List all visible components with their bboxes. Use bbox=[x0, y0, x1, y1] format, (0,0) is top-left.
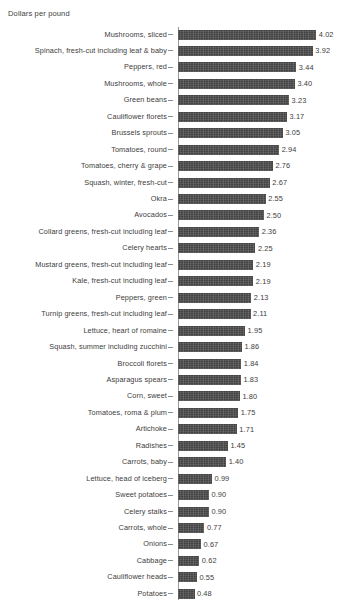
category-label: Squash, summer including zucchini bbox=[49, 342, 167, 352]
category-label: Collard greens, fresh-cut including leaf bbox=[38, 227, 167, 237]
bar-value-label: 0.62 bbox=[202, 556, 217, 566]
category-tick-mark bbox=[168, 528, 173, 529]
category-tick-mark bbox=[168, 199, 173, 200]
bar-value-label: 0.48 bbox=[197, 589, 212, 599]
bar-value-label: 1.83 bbox=[243, 375, 258, 385]
bar-value-label: 1.95 bbox=[248, 326, 263, 336]
category-tick-mark bbox=[168, 478, 173, 479]
category-label: Tomatoes, roma & plum bbox=[88, 408, 167, 418]
bar-value-label: 2.55 bbox=[268, 194, 283, 204]
category-label: Okra bbox=[151, 194, 167, 204]
bar-row: Avocados2.50 bbox=[0, 210, 342, 227]
category-label: Peppers, red bbox=[124, 62, 167, 72]
category-tick-mark bbox=[168, 495, 173, 496]
bar-value-label: 3.23 bbox=[292, 96, 307, 106]
category-label: Potatoes bbox=[137, 589, 167, 599]
bar-chart: Dollars per pound Mushrooms, sliced4.02S… bbox=[0, 0, 342, 613]
category-label: Peppers, green bbox=[116, 293, 167, 303]
category-label: Cauliflower heads bbox=[107, 572, 167, 582]
category-label: Tomatoes, cherry & grape bbox=[81, 161, 167, 171]
bar bbox=[178, 178, 270, 188]
bar-row: Corn, sweet1.80 bbox=[0, 391, 342, 408]
category-tick-mark bbox=[168, 396, 173, 397]
category-label: Carrots, baby bbox=[122, 457, 167, 467]
bar-row: Squash, summer including zucchini1.86 bbox=[0, 342, 342, 359]
category-label: Sweet potatoes bbox=[115, 490, 167, 500]
bar bbox=[178, 210, 264, 220]
category-tick-mark bbox=[168, 50, 173, 51]
bar-value-label: 1.45 bbox=[230, 441, 245, 451]
bar bbox=[178, 572, 197, 582]
bar-row: Mushrooms, whole3.40 bbox=[0, 79, 342, 96]
category-tick-mark bbox=[168, 462, 173, 463]
bar-row: Collard greens, fresh-cut including leaf… bbox=[0, 227, 342, 244]
bar-value-label: 0.67 bbox=[204, 540, 219, 550]
category-label: Avocados bbox=[134, 210, 167, 220]
bar-row: Onions0.67 bbox=[0, 539, 342, 556]
category-tick-mark bbox=[168, 149, 173, 150]
bar bbox=[178, 46, 313, 56]
bar-row: Lettuce, heart of romaine1.95 bbox=[0, 326, 342, 343]
bar bbox=[178, 62, 296, 72]
category-label: Kale, fresh-cut including leaf bbox=[72, 276, 167, 286]
category-tick-mark bbox=[168, 297, 173, 298]
bar bbox=[178, 441, 228, 451]
bar-row: Cauliflower florets3.17 bbox=[0, 112, 342, 129]
bar-row: Sweet potatoes0.90 bbox=[0, 490, 342, 507]
bar-value-label: 2.19 bbox=[256, 260, 271, 270]
bar-value-label: 2.76 bbox=[275, 161, 290, 171]
category-tick-mark bbox=[168, 347, 173, 348]
bar-row: Celery stalks0.90 bbox=[0, 507, 342, 524]
bar-value-label: 2.94 bbox=[282, 145, 297, 155]
bar bbox=[178, 128, 283, 138]
category-tick-mark bbox=[168, 593, 173, 594]
bar-value-label: 2.50 bbox=[267, 211, 282, 221]
category-tick-mark bbox=[168, 445, 173, 446]
bar-row: Artichoke1.71 bbox=[0, 424, 342, 441]
bar-value-label: 3.92 bbox=[315, 46, 330, 56]
bar bbox=[178, 194, 266, 204]
bar-row: Kale, fresh-cut including leaf2.19 bbox=[0, 276, 342, 293]
category-tick-mark bbox=[168, 511, 173, 512]
category-label: Artichoke bbox=[136, 424, 167, 434]
category-tick-mark bbox=[168, 544, 173, 545]
bar bbox=[178, 145, 279, 155]
category-label: Mustard greens, fresh-cut including leaf bbox=[35, 260, 167, 270]
bar-value-label: 3.40 bbox=[297, 79, 312, 89]
category-label: Radishes bbox=[136, 441, 167, 451]
bar-row: Lettuce, head of iceberg0.99 bbox=[0, 474, 342, 491]
bar-value-label: 2.13 bbox=[254, 293, 269, 303]
bar bbox=[178, 342, 242, 352]
bar bbox=[178, 276, 253, 286]
bar-value-label: 0.90 bbox=[211, 490, 226, 500]
category-tick-mark bbox=[168, 116, 173, 117]
bar bbox=[178, 95, 289, 105]
bar-value-label: 0.90 bbox=[211, 507, 226, 517]
bar bbox=[178, 539, 201, 549]
bar-row: Mustard greens, fresh-cut including leaf… bbox=[0, 260, 342, 277]
category-tick-mark bbox=[168, 363, 173, 364]
bar-row: Tomatoes, round2.94 bbox=[0, 145, 342, 162]
bar-value-label: 3.17 bbox=[290, 112, 305, 122]
bar-value-label: 1.40 bbox=[229, 457, 244, 467]
bar bbox=[178, 309, 251, 319]
bar bbox=[178, 161, 273, 171]
bar-value-label: 0.55 bbox=[199, 573, 214, 583]
bar bbox=[178, 556, 199, 566]
bar-value-label: 1.71 bbox=[239, 425, 254, 435]
category-label: Cauliflower florets bbox=[107, 112, 167, 122]
bar-value-label: 1.75 bbox=[241, 408, 256, 418]
bar bbox=[178, 589, 195, 599]
bar-row: Cauliflower heads0.55 bbox=[0, 572, 342, 589]
category-label: Lettuce, head of iceberg bbox=[86, 474, 167, 484]
bar-row: Carrots, whole0.77 bbox=[0, 523, 342, 540]
category-label: Squash, winter, fresh-cut bbox=[84, 178, 167, 188]
bar bbox=[178, 359, 241, 369]
bar-value-label: 3.44 bbox=[299, 63, 314, 73]
bar-row: Okra2.55 bbox=[0, 194, 342, 211]
category-tick-mark bbox=[168, 412, 173, 413]
bar bbox=[178, 293, 251, 303]
bar-value-label: 1.84 bbox=[244, 359, 259, 369]
bar-value-label: 2.25 bbox=[258, 244, 273, 254]
bar bbox=[178, 408, 238, 418]
